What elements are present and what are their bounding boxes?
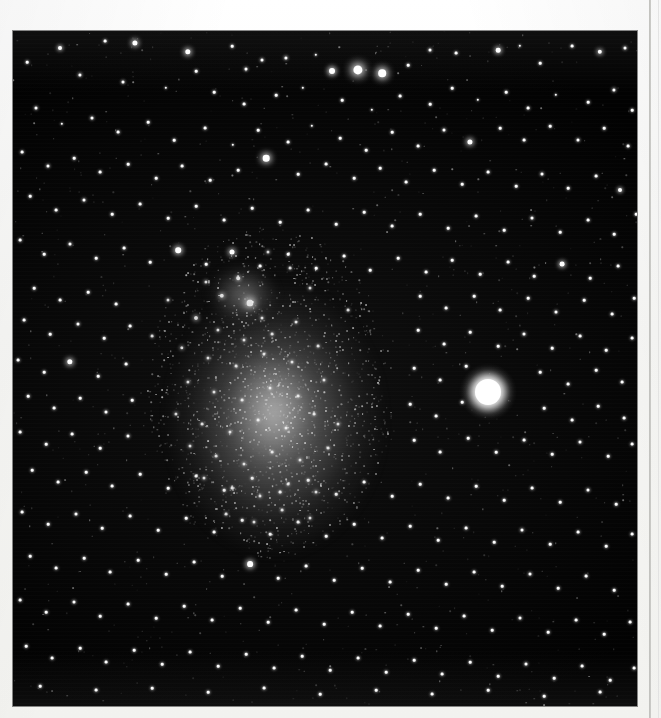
galaxy-speckle <box>333 371 335 373</box>
galaxy-speckle <box>215 314 216 315</box>
galaxy-speckle <box>339 389 340 390</box>
plate-grain <box>105 290 107 292</box>
field-star <box>129 515 132 518</box>
plate-grain <box>518 48 519 49</box>
galaxy-speckle <box>263 475 264 476</box>
galaxy-speckle <box>155 394 157 396</box>
galaxy-speckle <box>372 365 373 366</box>
galaxy-speckle <box>328 365 330 367</box>
plate-grain <box>300 571 301 572</box>
galaxy-speckle <box>263 269 265 271</box>
plate-grain <box>153 556 155 558</box>
field-star <box>247 561 253 567</box>
plate-grain <box>281 404 282 405</box>
galaxy-speckle <box>273 395 275 397</box>
galaxy-speckle <box>294 301 296 303</box>
plate-grain <box>396 624 398 626</box>
plate-grain <box>127 84 128 85</box>
galaxy-speckle <box>300 387 301 388</box>
plate-grain <box>58 263 59 264</box>
field-star <box>217 665 220 668</box>
galaxy-speckle <box>164 314 166 316</box>
galaxy-speckle <box>285 459 287 461</box>
galaxy-speckle <box>366 330 368 332</box>
galaxy-speckle <box>321 251 322 252</box>
plate-grain <box>89 520 91 522</box>
galaxy-speckle <box>284 337 286 339</box>
plate-grain <box>13 80 14 82</box>
plate-grain <box>253 198 255 200</box>
plate-grain <box>253 307 255 309</box>
plate-grain <box>202 334 204 336</box>
galaxy-speckle <box>280 471 282 473</box>
plate-grain <box>444 31 445 32</box>
galaxy-speckle <box>346 412 347 413</box>
galaxy-speckle <box>325 290 327 292</box>
galaxy-speckle <box>302 403 304 405</box>
plate-grain <box>593 703 594 704</box>
galaxy-speckle <box>249 547 250 548</box>
plate-grain <box>194 615 196 617</box>
plate-grain <box>151 184 153 186</box>
plate-grain <box>506 47 507 48</box>
galaxy-speckle <box>287 271 288 272</box>
galaxy-speckle <box>169 446 170 447</box>
plate-grain <box>407 285 408 286</box>
galaxy-speckle <box>371 406 373 408</box>
galaxy-speckle <box>298 388 300 390</box>
plate-grain <box>245 483 246 484</box>
plate-grain <box>83 651 84 652</box>
plate-grain <box>138 208 139 209</box>
galaxy-speckle <box>215 399 216 400</box>
plate-grain <box>365 615 366 616</box>
galaxy-speckle <box>197 485 199 487</box>
plate-grain <box>259 629 260 630</box>
galaxy-speckle <box>297 301 298 302</box>
galaxy-speckle <box>336 351 338 353</box>
galaxy-speckle <box>284 435 285 436</box>
plate-grain <box>104 444 105 445</box>
plate-grain <box>123 510 124 511</box>
field-star <box>413 659 416 662</box>
galaxy-speckle <box>310 311 311 312</box>
galaxy-speckle <box>285 378 286 379</box>
field-star <box>557 587 560 590</box>
galaxy-speckle <box>207 377 209 379</box>
galaxy-speckle <box>378 441 379 442</box>
plate-grain <box>34 123 36 125</box>
field-star <box>581 665 584 668</box>
galaxy-speckle <box>292 427 294 429</box>
plate-grain <box>285 577 286 578</box>
galaxy-speckle <box>291 533 292 534</box>
field-star <box>397 257 400 260</box>
plate-grain <box>323 639 325 641</box>
galaxy-speckle <box>245 258 246 259</box>
plate-grain <box>556 303 557 304</box>
galaxy-speckle <box>215 507 217 509</box>
galaxy-speckle <box>365 360 367 362</box>
plate-grain <box>104 434 105 435</box>
galaxy-speckle <box>315 446 316 447</box>
galaxy-speckle <box>253 374 255 376</box>
galaxy-speckle <box>308 254 309 255</box>
plate-grain <box>604 282 605 283</box>
field-star <box>461 183 464 186</box>
galaxy-core <box>211 327 329 479</box>
plate-grain <box>438 42 439 43</box>
galaxy-speckle <box>223 412 225 414</box>
galaxy-speckle <box>279 353 281 355</box>
field-star <box>445 307 448 310</box>
field-star <box>479 273 482 276</box>
galaxy-speckle <box>311 237 313 239</box>
plate-grain <box>65 301 66 302</box>
field-star <box>473 571 476 574</box>
field-star <box>127 603 130 606</box>
plate-grain <box>508 134 509 135</box>
field-star <box>125 363 128 366</box>
galaxy-speckle <box>209 401 210 402</box>
galaxy-speckle <box>204 300 205 301</box>
galaxy-speckle <box>280 411 281 412</box>
galaxy-speckle <box>215 453 217 455</box>
galaxy-speckle <box>299 235 301 237</box>
galaxy-speckle <box>273 523 274 524</box>
